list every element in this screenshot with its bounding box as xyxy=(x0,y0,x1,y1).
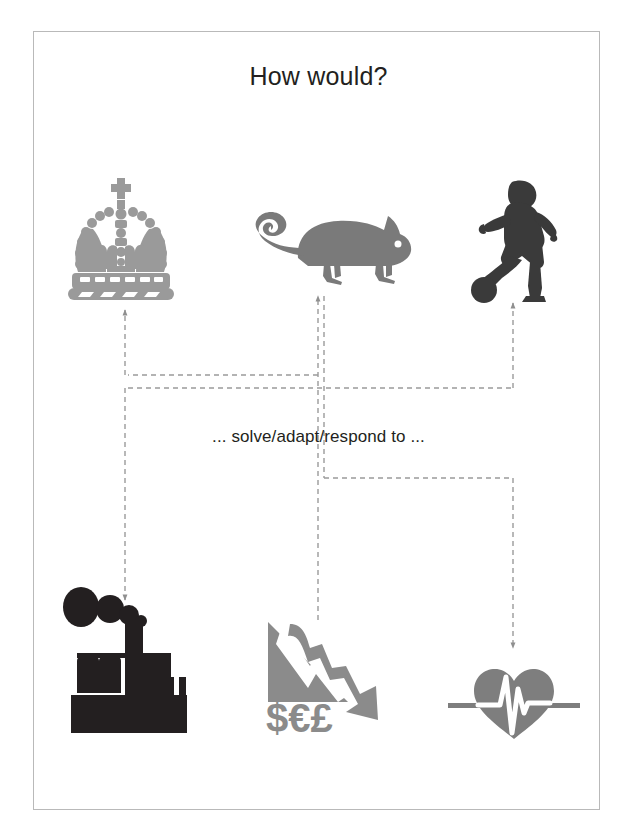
heart-monitor-icon[interactable] xyxy=(448,655,580,743)
middle-label: ... solve/adapt/respond to ... xyxy=(0,427,637,447)
currency-symbols: $€£ xyxy=(266,696,333,740)
factory-icon[interactable] xyxy=(63,585,191,737)
crown-icon[interactable] xyxy=(62,176,180,300)
chameleon-icon[interactable] xyxy=(238,196,418,296)
page-title: How would? xyxy=(0,62,637,91)
financial-decline-icon[interactable]: $€£ xyxy=(258,608,390,736)
footballer-icon[interactable] xyxy=(466,178,566,304)
slide-canvas: How would? ... solve/adapt/respond to . xyxy=(0,0,637,840)
